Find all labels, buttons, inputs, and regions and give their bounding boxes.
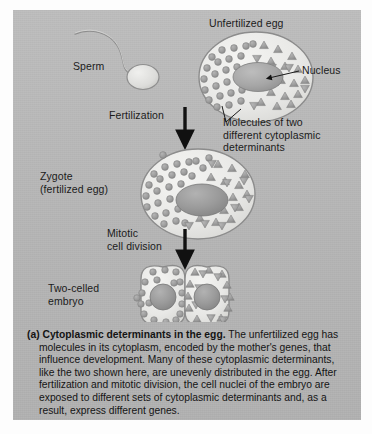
unfertilized-egg-cell (199, 32, 313, 122)
caption-lead: (a) Cytoplasmic determinants in the egg. (27, 329, 226, 340)
label-two-celled-embryo: Two-celled embryo (48, 282, 99, 307)
embryo-left-cell (134, 266, 186, 323)
egg-nucleus (233, 63, 283, 92)
embryo-right-nucleus (194, 284, 220, 310)
caption-body-text: The unfertilized egg has molecules in it… (39, 329, 338, 416)
figure-root: Unfertilized egg Sperm Nucleus Fertiliza… (0, 0, 372, 434)
zygote-cell (141, 149, 255, 239)
zygote-nucleus (176, 184, 228, 216)
caption-text: (a) Cytoplasmic determinants in the egg.… (27, 329, 347, 417)
label-sperm: Sperm (73, 60, 104, 73)
two-celled-embryo (134, 266, 235, 323)
diagram-area: Unfertilized egg Sperm Nucleus Fertiliza… (13, 10, 361, 322)
diagram-graphics (13, 10, 361, 322)
embryo-right-cell (184, 266, 234, 323)
embryo-left-nucleus (150, 284, 176, 310)
label-mitotic-cell-division: Mitotic cell division (107, 227, 162, 252)
label-fertilization: Fertilization (109, 109, 164, 122)
label-molecules-of-two-determinants: Molecules of two different cytoplasmic d… (223, 116, 321, 154)
figure-caption: (a) Cytoplasmic determinants in the egg.… (13, 323, 361, 420)
label-unfertilized-egg: Unfertilized egg (209, 17, 284, 30)
label-nucleus: Nucleus (302, 64, 341, 77)
label-zygote: Zygote (fertilized egg) (40, 170, 108, 195)
